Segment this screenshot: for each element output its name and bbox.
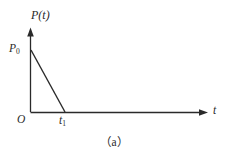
t1-subscript: 1 xyxy=(62,119,66,128)
x-axis-label: t xyxy=(213,105,216,117)
figure-panel: P(t) P0 O t1 t （a） xyxy=(0,0,228,156)
y-intercept-subscript: 0 xyxy=(16,47,20,56)
data-line-segment xyxy=(31,50,65,112)
origin-label: O xyxy=(17,114,25,126)
t1-tick-label: t1 xyxy=(59,115,66,127)
y-intercept-label: P0 xyxy=(9,43,20,55)
x-axis-arrowhead xyxy=(199,109,208,116)
y-axis-label: P(t) xyxy=(31,9,50,21)
y-axis-arrowhead xyxy=(27,28,34,37)
figure-caption: （a） xyxy=(0,133,228,149)
